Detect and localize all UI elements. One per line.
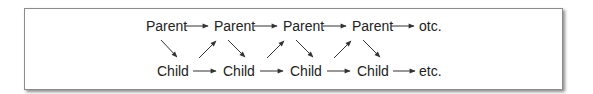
child-node-3: Child [290, 63, 322, 79]
arrow-child-3-to-parent-4 [334, 41, 351, 58]
arrow-parent-1-to-child-1 [161, 40, 177, 57]
arrow-parent-4-to-child-4 [363, 40, 380, 57]
child-node-2: Child [223, 63, 255, 79]
child-node-1: Child [157, 63, 189, 79]
parent-node-3: Parent [283, 18, 324, 34]
parent-node-etc: otc. [419, 18, 442, 34]
arrow-parent-3-to-child-3 [296, 40, 313, 57]
arrow-child-2-to-parent-3 [267, 41, 284, 58]
arrow-parent-2-to-child-2 [228, 40, 245, 57]
child-node-4: Child [357, 63, 389, 79]
diagram-canvas: Parent Parent Parent Parent otc. Child C… [0, 0, 593, 94]
parent-node-2: Parent [214, 18, 255, 34]
parent-node-4: Parent [352, 18, 393, 34]
child-node-etc: etc. [419, 63, 442, 79]
parent-node-1: Parent [146, 18, 187, 34]
arrow-child-1-to-parent-2 [199, 41, 216, 58]
